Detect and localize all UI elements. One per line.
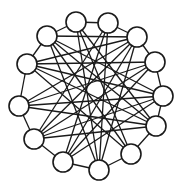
graph-node: [127, 27, 147, 47]
graph-edge: [47, 36, 137, 37]
graph-node: [145, 52, 165, 72]
graph-node: [17, 54, 37, 74]
graph-node: [37, 26, 57, 46]
graph-node: [24, 129, 44, 149]
graph-node: [121, 144, 141, 164]
graph-node: [146, 116, 166, 136]
graph-diagram: [0, 0, 183, 189]
graph-edge: [76, 22, 99, 170]
graph-node: [89, 160, 109, 180]
graph-node: [9, 96, 29, 116]
graph-node: [153, 86, 173, 106]
graph-node: [66, 12, 86, 32]
graph-node: [98, 13, 118, 33]
graph-node: [53, 152, 73, 172]
node-layer: [9, 12, 173, 180]
